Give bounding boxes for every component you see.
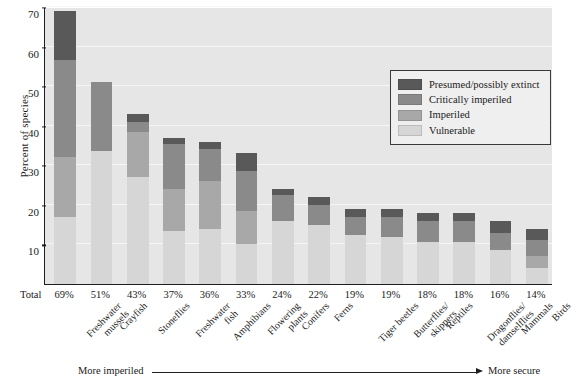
bar-segment — [453, 213, 475, 221]
bar-segment — [127, 114, 149, 122]
bar-segment — [127, 122, 149, 132]
bar-segment — [345, 209, 367, 217]
bar-segment — [236, 171, 258, 211]
bar-segment — [417, 221, 439, 243]
bar-segment — [199, 149, 221, 181]
bar-segment — [127, 177, 149, 284]
bar-4 — [163, 138, 185, 284]
bar-segment — [272, 221, 294, 284]
legend-item: Imperiled — [398, 108, 540, 122]
bar-segment — [417, 213, 439, 221]
legend-swatch — [398, 110, 422, 121]
total-value: 37% — [155, 289, 191, 300]
bar-series-group — [45, 8, 552, 284]
gradient-arrow-line — [152, 372, 477, 373]
total-value: 33% — [228, 289, 264, 300]
total-value: 69% — [46, 289, 82, 300]
bar-segment — [526, 256, 548, 268]
total-value: 18% — [409, 289, 445, 300]
legend: Presumed/possibly extinctCritically impe… — [390, 70, 551, 145]
bar-segment — [54, 11, 76, 60]
bar-segment — [526, 240, 548, 256]
legend-label: Imperiled — [429, 108, 470, 122]
bar-segment — [308, 197, 330, 205]
more-secure-label: More secure — [488, 365, 540, 376]
total-row-label: Total — [20, 289, 41, 300]
total-value: 18% — [445, 289, 481, 300]
legend-swatch — [398, 94, 422, 105]
total-value: 36% — [191, 289, 227, 300]
total-value: 19% — [336, 289, 372, 300]
bar-segment — [163, 231, 185, 284]
legend-label: Critically imperiled — [429, 93, 512, 107]
bar-segment — [417, 242, 439, 284]
bar-segment — [199, 181, 221, 228]
gridline — [45, 6, 552, 7]
bar-segment — [163, 189, 185, 231]
bar-segment — [453, 242, 475, 284]
bar-segment — [199, 229, 221, 284]
legend-swatch — [398, 79, 422, 90]
x-category-label: Ferns — [332, 300, 356, 324]
x-category-label: Freshwater fish — [193, 300, 240, 347]
bar-segment — [199, 142, 221, 150]
bar-segment — [54, 157, 76, 216]
bar-segment — [163, 144, 185, 190]
total-value: 22% — [300, 289, 336, 300]
total-value: 24% — [264, 289, 300, 300]
bar-2 — [91, 82, 113, 284]
total-value: 16% — [482, 289, 518, 300]
bar-8 — [308, 197, 330, 284]
plot-area: 10203040506070 Presumed/possibly extinct… — [44, 8, 552, 285]
more-imperiled-label: More imperiled — [78, 365, 144, 376]
bar-segment — [345, 235, 367, 284]
legend-item: Critically imperiled — [398, 93, 540, 107]
total-value: 19% — [373, 289, 409, 300]
bar-segment — [91, 151, 113, 284]
x-category-label: Amphibians — [231, 300, 273, 342]
x-category-label: Birds — [549, 300, 572, 323]
x-category-label: Tiger beetles — [377, 300, 421, 344]
bar-segment — [54, 217, 76, 284]
bar-segment — [526, 229, 548, 241]
bar-segment — [490, 250, 512, 284]
bar-11 — [417, 213, 439, 284]
total-value: 43% — [119, 289, 155, 300]
bar-segment — [381, 209, 403, 217]
legend-item: Vulnerable — [398, 124, 540, 138]
bar-14 — [526, 229, 548, 284]
legend-swatch — [398, 125, 422, 136]
bar-segment — [236, 153, 258, 171]
bar-segment — [91, 82, 113, 151]
bar-segment — [490, 233, 512, 251]
bar-segment — [308, 225, 330, 284]
bar-segment — [490, 221, 512, 233]
bar-segment — [345, 217, 367, 235]
bar-segment — [453, 221, 475, 243]
bar-segment — [308, 205, 330, 225]
bar-segment — [526, 268, 548, 284]
bar-13 — [490, 221, 512, 284]
bar-segment — [272, 195, 294, 221]
gradient-arrow-head — [476, 368, 483, 374]
total-value: 51% — [82, 289, 118, 300]
legend-label: Presumed/possibly extinct — [429, 78, 540, 92]
bar-segment — [54, 60, 76, 157]
bar-3 — [127, 114, 149, 284]
bar-segment — [381, 237, 403, 284]
bar-6 — [236, 153, 258, 284]
bar-segment — [381, 217, 403, 237]
x-category-label: Stoneflies — [155, 300, 191, 336]
legend-item: Presumed/possibly extinct — [398, 78, 540, 92]
x-axis-category-labels: Freshwater musselsCrayfishStonefliesFres… — [0, 300, 565, 358]
bar-10 — [381, 209, 403, 284]
bar-1 — [54, 11, 76, 284]
imperiled-secure-axis-note: More imperiled More secure — [0, 362, 565, 384]
total-value: 14% — [518, 289, 554, 300]
bar-7 — [272, 189, 294, 284]
bar-segment — [236, 211, 258, 245]
bar-9 — [345, 209, 367, 284]
bar-segment — [127, 132, 149, 178]
bar-5 — [199, 142, 221, 284]
